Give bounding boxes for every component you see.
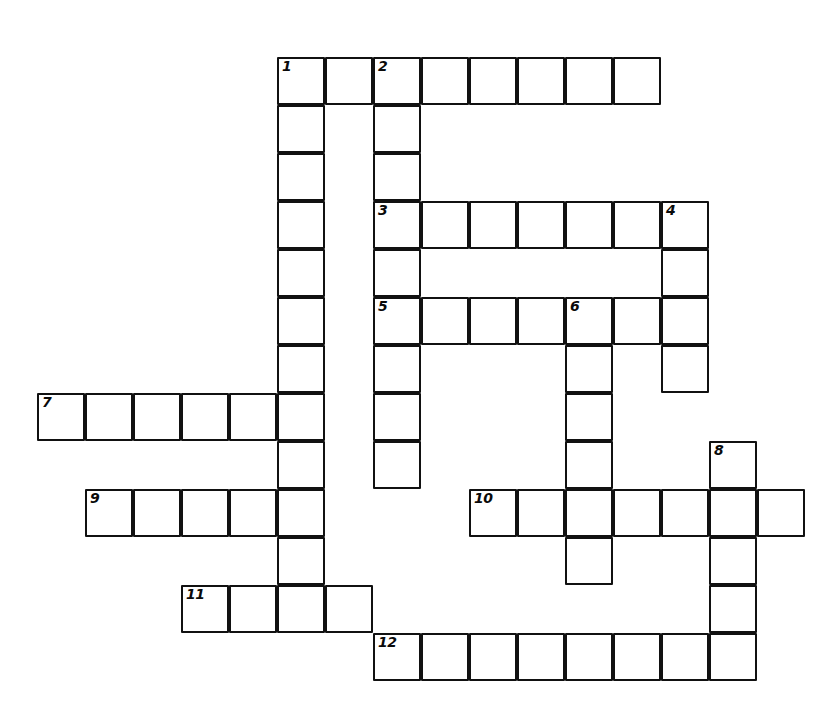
cell-number-4: 4 [666,203,675,218]
crossword-cell[interactable]: 6 [565,297,613,345]
crossword-cell[interactable] [85,393,133,441]
crossword-cell[interactable] [373,441,421,489]
crossword-cell[interactable] [469,633,517,681]
crossword-cell[interactable] [565,489,613,537]
crossword-cell[interactable] [421,633,469,681]
crossword-cell[interactable] [373,345,421,393]
crossword-cell[interactable] [613,57,661,105]
cell-number-8: 8 [714,443,723,458]
crossword-cell[interactable]: 4 [661,201,709,249]
crossword-cell[interactable] [277,105,325,153]
crossword-cell[interactable] [565,57,613,105]
crossword-cell[interactable] [757,489,805,537]
crossword-cell[interactable] [373,105,421,153]
crossword-cell[interactable] [277,153,325,201]
crossword-cell[interactable]: 8 [709,441,757,489]
crossword-cell[interactable] [565,537,613,585]
crossword-cell[interactable] [277,345,325,393]
crossword-cell[interactable] [277,537,325,585]
cell-number-5: 5 [378,299,387,314]
crossword-cell[interactable] [421,201,469,249]
crossword-cell[interactable] [229,393,277,441]
crossword-cell[interactable] [517,489,565,537]
crossword-cell[interactable] [277,249,325,297]
crossword-cell[interactable] [661,345,709,393]
crossword-cell[interactable] [613,297,661,345]
cell-number-6: 6 [570,299,579,314]
crossword-cell[interactable]: 3 [373,201,421,249]
crossword-cell[interactable]: 5 [373,297,421,345]
crossword-cell[interactable] [661,489,709,537]
crossword-cell[interactable] [709,633,757,681]
crossword-cell[interactable] [277,441,325,489]
crossword-cell[interactable] [613,633,661,681]
crossword-cell[interactable] [325,585,373,633]
crossword-cell[interactable] [661,297,709,345]
crossword-cell[interactable] [373,153,421,201]
crossword-cell[interactable] [517,633,565,681]
crossword-cell[interactable] [277,201,325,249]
crossword-cell[interactable] [277,297,325,345]
cell-number-3: 3 [378,203,387,218]
crossword-cell[interactable] [229,585,277,633]
crossword-cell[interactable] [565,201,613,249]
crossword-cell[interactable] [181,489,229,537]
crossword-cell[interactable] [709,537,757,585]
crossword-cell[interactable] [517,201,565,249]
crossword-cell[interactable] [469,57,517,105]
crossword-cell[interactable] [229,489,277,537]
crossword-cell[interactable] [565,393,613,441]
crossword-cell[interactable] [421,57,469,105]
crossword-cell[interactable] [133,489,181,537]
crossword-cell[interactable]: 7 [37,393,85,441]
crossword-cell[interactable]: 1 [277,57,325,105]
cell-number-9: 9 [90,491,99,506]
crossword-cell[interactable]: 10 [469,489,517,537]
crossword-cell[interactable] [709,489,757,537]
crossword-cell[interactable] [661,633,709,681]
crossword-cell[interactable] [517,297,565,345]
crossword-cell[interactable] [613,201,661,249]
crossword-cell[interactable] [325,57,373,105]
cell-number-1: 1 [282,59,291,74]
crossword-cell[interactable] [181,393,229,441]
crossword-cell[interactable] [373,393,421,441]
crossword-cell[interactable] [469,297,517,345]
crossword-cell[interactable] [517,57,565,105]
crossword-cell[interactable]: 11 [181,585,229,633]
crossword-cell[interactable] [277,585,325,633]
cell-number-12: 12 [378,635,397,650]
crossword-cell[interactable] [565,345,613,393]
cell-number-2: 2 [378,59,387,74]
cell-number-10: 10 [474,491,493,506]
crossword-cell[interactable] [421,297,469,345]
cell-number-11: 11 [186,587,205,602]
crossword-cell[interactable] [277,489,325,537]
cell-number-7: 7 [42,395,51,410]
crossword-cell[interactable] [565,441,613,489]
crossword-cell[interactable]: 12 [373,633,421,681]
crossword-cell[interactable] [133,393,181,441]
crossword-cell[interactable] [277,393,325,441]
crossword-cell[interactable] [469,201,517,249]
crossword-cell[interactable]: 2 [373,57,421,105]
crossword-cell[interactable]: 9 [85,489,133,537]
crossword-cell[interactable] [373,249,421,297]
crossword-page: 123456789101112 [0,0,834,713]
crossword-cell[interactable] [565,633,613,681]
crossword-cell[interactable] [709,585,757,633]
crossword-cell[interactable] [661,249,709,297]
crossword-cell[interactable] [613,489,661,537]
crossword-grid[interactable]: 123456789101112 [0,0,834,713]
